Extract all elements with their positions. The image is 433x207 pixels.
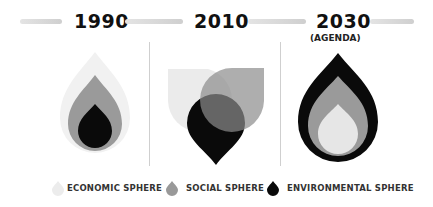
legend-environmental: ENVIRONMENTAL SPHERE <box>287 183 414 193</box>
environmental-legend-icon <box>267 181 279 196</box>
social-sphere-drop <box>200 68 264 132</box>
diagram-2010 <box>168 68 264 165</box>
diagram-2030 <box>298 53 378 162</box>
spheres-diagram <box>0 0 433 207</box>
economic-legend-icon <box>52 181 64 196</box>
legend-economic: ECONOMIC SPHERE <box>67 183 162 193</box>
legend-social: SOCIAL SPHERE <box>186 183 264 193</box>
diagram-1990 <box>60 52 130 153</box>
social-legend-icon <box>166 181 178 196</box>
